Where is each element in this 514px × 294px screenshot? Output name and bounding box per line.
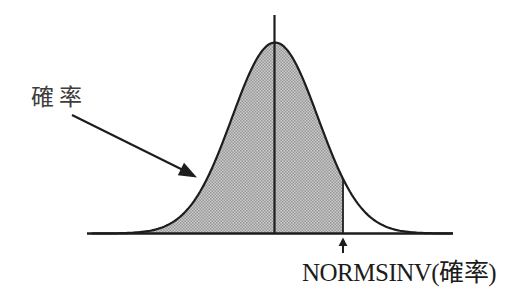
bell-curve-canvas [0,0,514,294]
shaded-probability-area [118,43,343,234]
probability-arrow [72,115,197,178]
normsinv-up-arrow [339,238,348,254]
normsinv-label: NORMSINV(確率) [302,252,496,288]
probability-label: 確率 [31,78,87,112]
normal-distribution-figure: 確率 NORMSINV(確率) [0,0,514,294]
